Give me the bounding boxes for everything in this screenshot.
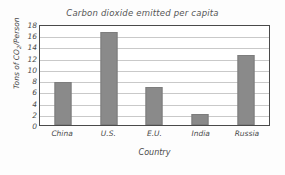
x-axis-tick-label: India bbox=[178, 129, 224, 138]
bar-india[interactable] bbox=[192, 114, 209, 125]
bars-layer bbox=[40, 26, 269, 125]
plot-area bbox=[39, 25, 270, 126]
bar-slot bbox=[132, 26, 178, 125]
bar-russia[interactable] bbox=[238, 55, 255, 125]
y-axis-title-subscript: 2 bbox=[16, 45, 22, 49]
y-axis-title-suffix: /Person bbox=[12, 17, 21, 45]
x-axis-tick-label: U.S. bbox=[85, 129, 131, 138]
x-axis-tick-labels: ChinaU.S.E.U.IndiaRussia bbox=[39, 129, 270, 143]
bar-e-u[interactable] bbox=[146, 87, 163, 125]
x-axis-tick-label: Russia bbox=[224, 129, 270, 138]
bar-china[interactable] bbox=[54, 82, 71, 125]
y-axis-tick-label: 4 bbox=[32, 99, 37, 108]
chart-title: Carbon dioxide emitted per capita bbox=[0, 8, 285, 18]
y-axis-title-prefix: Tons of CO bbox=[12, 49, 21, 89]
y-axis-tick-label: 14 bbox=[27, 43, 37, 52]
y-axis-title: Tons of CO2/Person bbox=[12, 0, 23, 108]
y-axis-tick-label: 6 bbox=[32, 88, 37, 97]
y-axis-tick-label: 0 bbox=[32, 122, 37, 131]
y-axis-tick-label: 16 bbox=[27, 32, 37, 41]
bar-slot bbox=[86, 26, 132, 125]
chart-screenshot: Carbon dioxide emitted per capita 181614… bbox=[0, 0, 285, 175]
bar-slot bbox=[40, 26, 86, 125]
x-axis-title: Country bbox=[39, 148, 270, 157]
y-axis-tick-label: 10 bbox=[27, 65, 37, 74]
y-axis-tick-label: 8 bbox=[32, 77, 37, 86]
bar-u-s[interactable] bbox=[100, 32, 117, 125]
bar-slot bbox=[177, 26, 223, 125]
x-axis-tick-label: E.U. bbox=[131, 129, 177, 138]
y-axis-tick-label: 12 bbox=[27, 54, 37, 63]
y-axis-tick-label: 2 bbox=[32, 110, 37, 119]
y-axis-tick-label: 18 bbox=[27, 21, 37, 30]
bar-slot bbox=[223, 26, 269, 125]
x-axis-tick-label: China bbox=[39, 129, 85, 138]
